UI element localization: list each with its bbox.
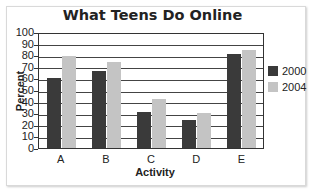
gridline <box>39 45 263 46</box>
bar-A-2000 <box>47 78 61 148</box>
x-tick-label: D <box>186 153 206 165</box>
x-tick-label: B <box>96 153 116 165</box>
legend-swatch <box>268 82 278 92</box>
y-tick-label: 60 <box>14 73 34 84</box>
plot-area <box>38 33 264 149</box>
legend-item: 2000 <box>268 64 306 78</box>
y-tick-label: 20 <box>14 120 34 131</box>
y-tick-label: 50 <box>14 85 34 96</box>
legend-swatch <box>268 66 278 76</box>
y-tick-label: 90 <box>14 39 34 50</box>
bar-A-2004 <box>62 56 76 148</box>
y-tick-label: 10 <box>14 131 34 142</box>
chart-title: What Teens Do Online <box>40 7 265 23</box>
legend: 20002004 <box>268 64 306 96</box>
bar-E-2004 <box>242 50 256 148</box>
legend-item: 2004 <box>268 80 306 94</box>
x-tick-label: C <box>141 153 161 165</box>
y-tick-label: 70 <box>14 62 34 73</box>
bar-E-2000 <box>227 54 241 148</box>
y-tick-label: 30 <box>14 108 34 119</box>
bar-C-2000 <box>137 112 151 148</box>
x-axis-label: Activity <box>130 166 180 178</box>
bar-B-2004 <box>107 62 121 148</box>
bar-D-2000 <box>182 120 196 148</box>
y-tick-mark <box>34 149 38 150</box>
x-tick-label: E <box>231 153 251 165</box>
y-tick-label: 80 <box>14 50 34 61</box>
bar-B-2000 <box>92 71 106 148</box>
y-tick-label: 0 <box>14 143 34 154</box>
y-tick-label: 40 <box>14 97 34 108</box>
bar-C-2004 <box>152 99 166 148</box>
x-tick-label: A <box>51 153 71 165</box>
legend-label: 2004 <box>282 81 306 93</box>
legend-label: 2000 <box>282 65 306 77</box>
bar-D-2004 <box>197 113 211 148</box>
y-tick-label: 100 <box>14 27 34 38</box>
